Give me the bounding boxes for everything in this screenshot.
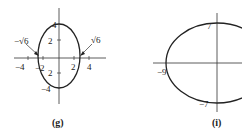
label-neg7: −7 (199, 99, 209, 109)
figure-i: 7 −9 −7 (i) (153, 13, 242, 129)
y-tick-4: 4 (52, 20, 57, 30)
y-tick-neg4: −4 (41, 84, 51, 94)
caption-g: (g) (52, 117, 64, 129)
x-tick-neg2: −2 (35, 63, 45, 73)
x-tick-neg4: −4 (15, 62, 25, 72)
diagram-canvas: 4 2 2 −4 −4 −2 2 4 −√6 √6 (g) 7 −9 −7 (i… (0, 0, 242, 134)
x-tick-4: 4 (87, 62, 92, 72)
annotation-neg-sqrt6: −√6 (14, 36, 29, 46)
caption-i: (i) (212, 117, 221, 129)
figure-g: 4 2 2 −4 −4 −2 2 4 −√6 √6 (g) (14, 8, 106, 129)
y-tick-2-lower: 2 (48, 68, 53, 78)
x-tick-2: 2 (71, 62, 76, 72)
y-tick-2: 2 (48, 36, 53, 46)
annotation-sqrt6: √6 (91, 35, 101, 45)
label-7: 7 (207, 21, 212, 31)
label-neg9: −9 (157, 67, 167, 77)
